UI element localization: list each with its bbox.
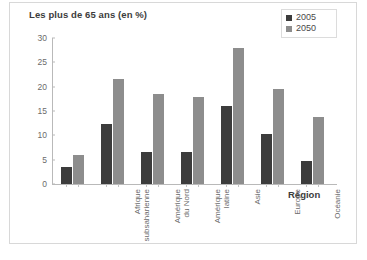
- bar-group: [141, 38, 164, 184]
- bar-2050: [73, 155, 84, 184]
- bar-2005: [221, 106, 232, 184]
- legend-item-2050: 2050: [286, 23, 332, 34]
- x-axis-tick-mark: [146, 184, 147, 187]
- x-axis-category-label: Asie: [254, 189, 263, 247]
- y-axis-tick-label: 10: [38, 130, 47, 140]
- y-axis-tick-label: 30: [38, 33, 47, 43]
- x-axis-category-label: Afrique subsaharienne: [134, 189, 151, 247]
- bar-group: [301, 38, 324, 184]
- legend-swatch-2005: [286, 15, 292, 21]
- legend-label-2050: 2050: [296, 23, 316, 34]
- x-axis-tick-mark: [106, 184, 107, 187]
- y-axis-tick-mark: [52, 62, 55, 63]
- y-axis-tick-label: 20: [38, 82, 47, 92]
- y-axis-tick-label: 5: [42, 155, 47, 165]
- y-axis-tick-mark: [52, 184, 55, 185]
- bar-group: [221, 38, 244, 184]
- x-axis-tick-mark: [118, 184, 119, 187]
- x-axis-tick-mark: [266, 184, 267, 187]
- bar-2050: [313, 117, 324, 184]
- y-axis-tick-mark: [52, 135, 55, 136]
- legend-swatch-2050: [286, 26, 292, 32]
- chart-frame: Les plus de 65 ans (en %) 2005 2050 0510…: [9, 2, 357, 244]
- x-axis-category-label: Océanie: [334, 189, 343, 247]
- x-axis-tick-mark: [66, 184, 67, 187]
- x-axis-tick-mark: [158, 184, 159, 187]
- bar-group: [181, 38, 204, 184]
- bar-group: [261, 38, 284, 184]
- x-axis-category-label: Amérique latine: [214, 189, 231, 247]
- y-axis-tick-label: 25: [38, 57, 47, 67]
- bar-2005: [261, 134, 272, 184]
- x-axis-line: [52, 184, 337, 185]
- x-axis-category-label: Amérique du Nord: [174, 189, 191, 247]
- x-axis-tick-mark: [318, 184, 319, 187]
- y-axis-tick-mark: [52, 159, 55, 160]
- bar-2050: [233, 48, 244, 184]
- bar-2050: [273, 89, 284, 184]
- bar-2005: [101, 124, 112, 184]
- bar-2050: [113, 79, 124, 184]
- y-axis-tick-mark: [52, 38, 55, 39]
- x-axis-tick-mark: [306, 184, 307, 187]
- bar-2050: [153, 94, 164, 184]
- bar-2005: [61, 167, 72, 184]
- chart-legend: 2005 2050: [281, 9, 337, 38]
- chart-title: Les plus de 65 ans (en %): [29, 9, 147, 20]
- x-axis-tick-mark: [198, 184, 199, 187]
- bar-group: [61, 38, 84, 184]
- x-axis-category-label: Europe: [294, 189, 303, 247]
- legend-item-2005: 2005: [286, 12, 332, 23]
- x-axis-tick-mark: [226, 184, 227, 187]
- y-axis-tick-mark: [52, 86, 55, 87]
- x-axis-tick-mark: [238, 184, 239, 187]
- bar-2005: [181, 152, 192, 184]
- plot-area: 051015202530: [52, 38, 332, 184]
- y-axis-tick-label: 0: [42, 179, 47, 189]
- y-axis-tick-mark: [52, 111, 55, 112]
- x-axis-tick-mark: [278, 184, 279, 187]
- bar-2005: [301, 161, 312, 184]
- bar-2050: [193, 97, 204, 184]
- x-axis-tick-mark: [186, 184, 187, 187]
- y-axis-tick-label: 15: [38, 106, 47, 116]
- x-axis-tick-mark: [78, 184, 79, 187]
- bar-2005: [141, 152, 152, 184]
- bar-group: [101, 38, 124, 184]
- legend-label-2005: 2005: [296, 12, 316, 23]
